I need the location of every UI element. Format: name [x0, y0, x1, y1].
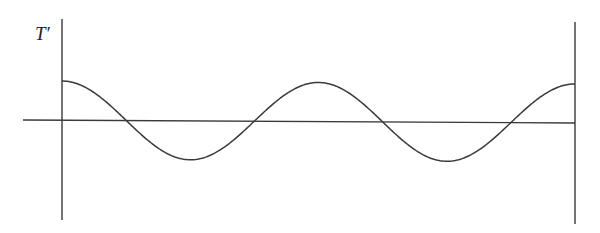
- y-axis-label: T′: [35, 24, 50, 43]
- diagram: T′: [0, 0, 600, 233]
- plot-canvas: [0, 0, 600, 233]
- horizontal-axis: [23, 120, 575, 123]
